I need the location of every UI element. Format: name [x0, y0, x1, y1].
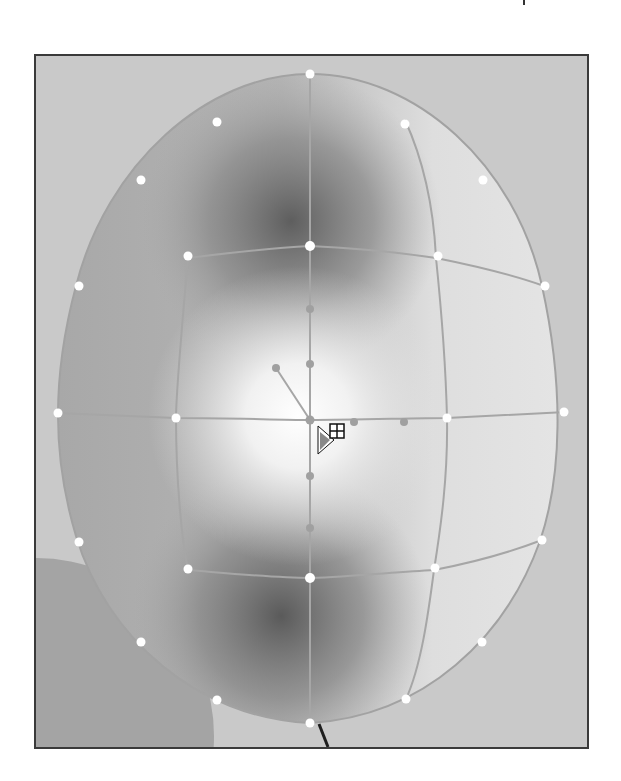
balloon-string — [319, 724, 328, 747]
anchor-point — [306, 719, 315, 728]
anchor-point — [137, 638, 146, 647]
anchor-point — [305, 241, 315, 251]
anchor-point — [560, 408, 569, 417]
anchor-point — [541, 282, 550, 291]
anchor-point — [213, 118, 222, 127]
anchor-point — [431, 564, 440, 573]
illustration-editor-view — [0, 0, 621, 781]
artwork-svg[interactable] — [36, 56, 587, 747]
artboard-canvas[interactable] — [34, 54, 589, 749]
anchor-point — [305, 573, 315, 583]
anchor-point — [401, 120, 410, 129]
anchor-point — [54, 409, 63, 418]
anchor-point — [184, 252, 193, 261]
anchor-point — [75, 538, 84, 547]
anchor-point — [443, 414, 452, 423]
ruler-tick — [523, 0, 525, 5]
anchor-point — [538, 536, 547, 545]
anchor-point — [184, 565, 193, 574]
anchor-point — [306, 70, 315, 79]
anchor-point — [434, 252, 443, 261]
anchor-point — [137, 176, 146, 185]
anchor-point — [479, 176, 488, 185]
anchor-point — [75, 282, 84, 291]
anchor-point — [172, 414, 181, 423]
anchor-point — [213, 696, 222, 705]
anchor-point — [478, 638, 487, 647]
anchor-point — [402, 695, 411, 704]
